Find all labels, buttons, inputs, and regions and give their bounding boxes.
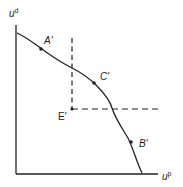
point-e-dot bbox=[70, 107, 73, 110]
x-axis-label: up bbox=[162, 170, 172, 182]
point-a-dot bbox=[39, 47, 43, 51]
utility-frontier-diagram: ud up A′ C′ B′ E′ bbox=[0, 0, 183, 187]
point-c-label: C′ bbox=[100, 71, 110, 82]
frontier-curve bbox=[17, 33, 142, 173]
point-b-dot bbox=[129, 140, 133, 144]
point-a-label: A′ bbox=[43, 35, 54, 46]
point-e-label: E′ bbox=[58, 111, 67, 122]
y-axis-label: ud bbox=[9, 7, 19, 19]
point-b-label: B′ bbox=[139, 138, 149, 149]
point-c-dot bbox=[92, 81, 96, 85]
